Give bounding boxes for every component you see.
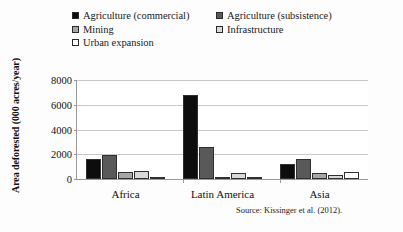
legend-item[interactable]: Infrastructure [216,23,376,37]
legend-swatch-icon [72,12,79,19]
y-tick-mark [74,179,77,180]
legend-swatch-icon [216,12,223,19]
bar[interactable] [296,159,311,179]
y-tick-label: 6000 [51,99,72,110]
bar[interactable] [247,177,262,179]
bar[interactable] [183,95,198,179]
bar[interactable] [86,159,101,179]
x-axis-group-separator [280,179,281,183]
x-tick-label: Africa [111,188,139,200]
legend-item-label: Agriculture (subsistence) [227,9,332,23]
bar-groups-container: AfricaLatin AmericaAsia [77,80,368,179]
bar[interactable] [215,177,230,179]
x-tick-label: Latin America [191,188,254,200]
bar[interactable] [280,164,295,179]
y-tick-label: 0 [67,174,72,185]
chart-legend: Agriculture (commercial)Agriculture (sub… [72,9,372,50]
bar-group: Africa [86,80,166,179]
legend-swatch-icon [72,39,79,46]
y-axis-title: Area deforested (000 acres/year) [10,37,21,215]
bar[interactable] [118,172,133,179]
bar[interactable] [199,147,214,179]
legend-item-label: Mining [83,23,114,37]
legend-item-label: Agriculture (commercial) [83,9,189,23]
legend-swatch-icon [216,26,223,33]
legend-item-label: Urban expansion [83,36,154,50]
bar[interactable] [312,173,327,179]
bar-group: Latin America [183,80,263,179]
bar[interactable] [150,177,165,179]
legend-item[interactable]: Agriculture (commercial) [72,9,212,23]
source-note: Source: Kissinger et al. (2012). [236,205,342,215]
deforestation-bar-chart-figure: Agriculture (commercial)Agriculture (sub… [0,0,403,232]
y-tick-label: 8000 [51,75,72,86]
bar[interactable] [344,172,359,179]
legend-item-label: Infrastructure [227,23,283,37]
y-tick-label: 2000 [51,149,72,160]
plot-wrapper: 02000400060008000 AfricaLatin AmericaAsi… [76,80,368,180]
legend-swatch-icon [72,26,79,33]
bar[interactable] [231,173,246,179]
bar[interactable] [134,171,149,179]
y-tick-label: 4000 [51,124,72,135]
legend-item[interactable]: Agriculture (subsistence) [216,9,376,23]
x-tick-label: Asia [309,188,329,200]
bar[interactable] [102,155,117,179]
legend-item[interactable]: Urban expansion [72,36,212,50]
legend-item[interactable]: Mining [72,23,212,37]
bar-group: Asia [280,80,360,179]
x-axis-group-separator [183,179,184,183]
bar[interactable] [328,175,343,179]
plot-area: 02000400060008000 AfricaLatin AmericaAsi… [76,80,368,180]
